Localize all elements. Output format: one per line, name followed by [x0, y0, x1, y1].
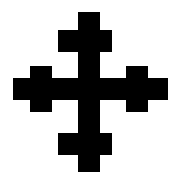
cross-crosslet-svg: Cross Crosslet: [0, 0, 182, 184]
main-horizontal-bar: [13, 78, 168, 100]
figure-canvas: Cross Crosslet A Latin-style cross in wh…: [0, 0, 182, 184]
